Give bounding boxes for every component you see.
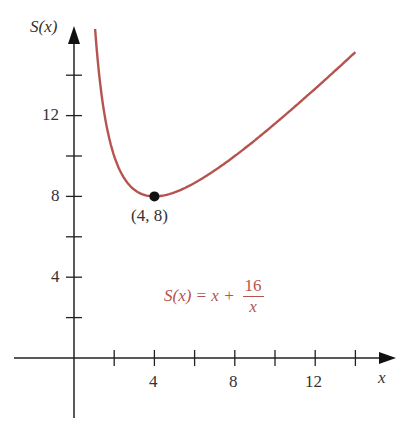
equation-numerator: 16 — [243, 276, 264, 297]
minimum-point-label: (4, 8) — [131, 206, 168, 226]
x-axis-arrow-icon — [379, 352, 396, 364]
x-axis-label: x — [378, 368, 386, 388]
y-axis-arrow-icon — [68, 26, 80, 44]
equation-fraction: 16 x — [243, 276, 264, 316]
function-curve — [95, 29, 355, 196]
minimum-point-marker — [149, 191, 159, 201]
x-tick-label-12: 12 — [305, 372, 322, 392]
y-tick-label-12: 12 — [42, 105, 59, 125]
y-axis-label: S(x) — [30, 17, 57, 37]
equation-denominator: x — [249, 297, 257, 317]
y-tick-label-8: 8 — [51, 186, 60, 206]
function-plot — [0, 0, 420, 441]
equation-lhs: S(x) = x + — [164, 286, 235, 306]
x-tick-label-4: 4 — [149, 372, 158, 392]
y-tick-label-4: 4 — [51, 267, 60, 287]
x-tick-label-8: 8 — [229, 372, 238, 392]
function-equation: S(x) = x + 16 x — [164, 276, 264, 316]
